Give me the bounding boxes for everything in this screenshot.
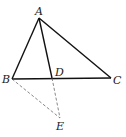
segment-DE [52,78,60,118]
label-point-c: C [113,74,122,87]
label-point-d: D [54,66,64,79]
label-point-a: A [34,5,43,18]
triangle-diagram: ABCDE [0,0,126,137]
segment-BE [12,79,60,118]
label-point-b: B [1,73,10,86]
point-labels: ABCDE [1,5,122,133]
segment-AB [12,18,39,79]
label-point-e: E [55,120,64,133]
